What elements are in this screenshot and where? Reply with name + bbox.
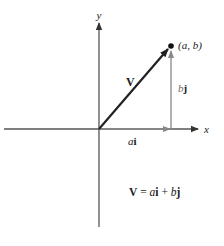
vertical-unit: j [183,82,188,94]
vector-v-arrow [99,49,168,129]
vertical-component-label: bj [178,82,187,94]
vector-diagram: y x (a, b) V bj ai V = ai + bj [0,0,224,246]
x-axis-label: x [203,123,209,135]
tip-point [168,43,174,49]
horizontal-component-label: ai [128,135,137,147]
diagram-svg: y x (a, b) V bj ai V = ai + bj [0,0,224,246]
equation-plus: + [159,186,171,198]
equation: V = ai + bj [129,186,181,199]
equation-j: j [176,186,181,199]
y-axis-label: y [96,9,102,21]
equation-equals: = [137,186,149,198]
vector-v-label: V [126,75,135,89]
tip-point-label: (a, b) [178,39,202,52]
horizontal-unit: i [134,135,137,147]
